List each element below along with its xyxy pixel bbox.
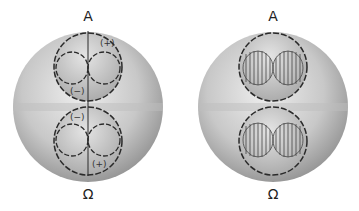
diagram-canvas: (+) (−) (−) (+) (0, 0, 359, 211)
alpha-label-left: A (83, 8, 93, 24)
omega-label-left: Ω (83, 186, 94, 202)
sign-lower-bottom: (+) (92, 159, 107, 169)
alpha-label-right: A (268, 8, 278, 24)
left-figure: (+) (−) (−) (+) (13, 31, 163, 182)
sign-upper-bottom: (−) (70, 86, 85, 96)
right-figure (198, 32, 348, 182)
sign-lower-top: (−) (70, 112, 85, 122)
omega-label-right: Ω (268, 186, 279, 202)
sign-upper-top: (+) (100, 38, 115, 48)
